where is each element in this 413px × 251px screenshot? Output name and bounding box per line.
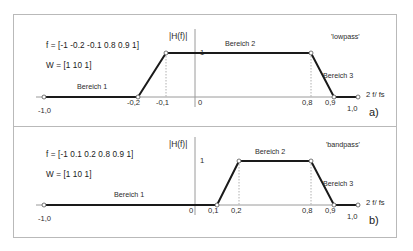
x-tick-minus-1: -1,0 — [38, 107, 51, 115]
vertex-marker — [309, 51, 313, 55]
w-equation: W = [1 10 1] — [46, 62, 92, 70]
y-axis-label: |H(f)| — [169, 32, 187, 40]
x-tick-minus-1: -1,0 — [38, 215, 51, 223]
y-tick-one: 1 — [200, 157, 204, 165]
y-tick-one: 1 — [200, 49, 204, 57]
region-label-1: Bereich 1 — [114, 191, 144, 198]
region-label-2: Bereich 2 — [225, 40, 255, 47]
x-tick-02: 0,2 — [231, 207, 242, 215]
x-tick-zero: 0 — [198, 99, 202, 107]
panel-id-a: a) — [369, 107, 379, 118]
vertex-marker — [42, 203, 46, 207]
f-equation: f = [-1 0.1 0.2 0.8 0.9 1] — [46, 151, 134, 159]
panel-lowpass: f = [-1 -0.2 -0.1 0.8 0.9 1] W = [1 10 1… — [14, 15, 398, 126]
vertex-marker — [309, 159, 313, 163]
x-tick-08: 0,8 — [302, 99, 313, 107]
region-label-3: Bereich 3 — [323, 72, 353, 79]
figure-frame: f = [-1 -0.2 -0.1 0.8 0.9 1] W = [1 10 1… — [13, 14, 397, 238]
vertex-marker — [356, 203, 360, 207]
w-equation: W = [1 10 1] — [46, 171, 92, 179]
vertex-marker — [42, 95, 46, 99]
vertex-marker — [237, 159, 241, 163]
x-axis-label: 2 f/ fs — [366, 199, 385, 207]
vertex-marker — [164, 51, 168, 55]
f-equation: f = [-1 -0.2 -0.1 0.8 0.9 1] — [46, 42, 139, 50]
region-label-3: Bereich 3 — [323, 180, 353, 187]
x-tick-01: 0,1 — [208, 207, 219, 215]
x-tick-zero: 0 — [189, 207, 193, 215]
x-axis-label: 2 f/ fs — [366, 91, 385, 99]
region-label-2: Bereich 2 — [255, 148, 285, 155]
y-axis-label: |H(f)| — [169, 140, 187, 148]
region-label-1: Bereich 1 — [77, 83, 107, 90]
vertex-marker — [356, 95, 360, 99]
panel-bandpass: f = [-1 0.1 0.2 0.8 0.9 1] W = [1 10 1] … — [14, 127, 398, 238]
x-tick-08: 0,8 — [302, 207, 313, 215]
x-tick-1: 1,0 — [347, 213, 358, 221]
filter-kind-label: 'lowpass' — [331, 33, 360, 40]
filter-kind-label: 'bandpass' — [326, 141, 360, 148]
x-tick-minus-02: -0,2 — [127, 99, 140, 107]
x-tick-09: 0,9 — [325, 99, 336, 107]
x-tick-09: 0,9 — [325, 207, 336, 215]
panel-id-b: b) — [369, 215, 379, 226]
x-tick-1: 1,0 — [347, 105, 358, 113]
x-tick-minus-01: -0,1 — [156, 99, 169, 107]
